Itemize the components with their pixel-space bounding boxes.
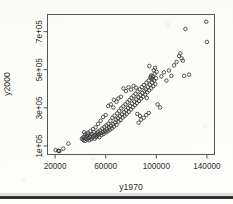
y-axis-tick-labels: 1e+053e+055e+057e+05: [35, 20, 44, 158]
data-point: [187, 73, 191, 77]
data-point: [148, 83, 152, 87]
x-axis-ticks: [55, 155, 207, 159]
plot-frame: [48, 15, 215, 155]
data-point: [154, 77, 158, 81]
scan-bottom-edge: [0, 196, 233, 199]
y-axis-title: y2000: [2, 72, 12, 96]
data-point: [146, 85, 150, 89]
data-point: [205, 20, 209, 24]
data-point: [167, 69, 171, 73]
data-point: [172, 64, 176, 68]
y-tick-label: 5e+05: [35, 58, 44, 81]
data-point: [67, 142, 71, 146]
y-tick-label: 1e+05: [35, 134, 44, 157]
data-point: [128, 98, 132, 102]
x-axis-tick-labels: 2000060000100000140000: [44, 162, 221, 171]
data-point: [162, 71, 166, 75]
data-point: [140, 85, 144, 89]
data-point: [175, 60, 179, 64]
data-point: [147, 89, 151, 93]
y-tick-label: 7e+05: [35, 20, 44, 43]
data-point: [156, 103, 160, 107]
x-tick-label: 20000: [44, 162, 67, 171]
data-point: [96, 122, 100, 126]
scatter-plot: 2000060000100000140000 1e+053e+055e+057e…: [0, 0, 233, 204]
data-point: [124, 89, 128, 93]
data-point: [138, 114, 142, 118]
data-point: [62, 147, 65, 151]
figure-page: 2000060000100000140000 1e+053e+055e+057e…: [0, 0, 233, 204]
data-point: [170, 74, 174, 78]
data-point: [145, 96, 149, 100]
data-point: [115, 100, 119, 104]
data-point: [101, 115, 105, 119]
y-axis-ticks: [44, 32, 48, 146]
data-point: [148, 64, 152, 68]
data-point: [129, 88, 133, 92]
data-point: [184, 27, 188, 31]
data-point: [99, 119, 103, 123]
data-point-group: [54, 20, 209, 153]
data-point: [158, 106, 162, 110]
x-axis-title: y1970: [119, 182, 143, 192]
data-point: [154, 82, 158, 86]
data-point: [111, 116, 115, 120]
data-point: [152, 84, 156, 88]
y-tick-label: 3e+05: [35, 96, 44, 119]
data-point: [205, 40, 209, 44]
data-point: [145, 91, 149, 95]
data-point: [141, 95, 145, 99]
data-point: [153, 72, 157, 76]
data-point: [160, 75, 164, 79]
data-point: [145, 81, 149, 85]
x-tick-label: 60000: [94, 162, 117, 171]
data-point: [182, 74, 186, 78]
data-point: [132, 94, 136, 98]
data-point: [130, 96, 134, 100]
data-point: [136, 90, 140, 94]
data-point: [127, 110, 131, 114]
data-point: [147, 111, 151, 115]
data-point: [149, 86, 153, 90]
data-point: [112, 106, 116, 110]
data-point: [165, 79, 169, 83]
x-tick-label: 100000: [143, 162, 171, 171]
x-tick-label: 140000: [193, 162, 221, 171]
data-point: [133, 103, 137, 107]
data-point: [137, 121, 141, 125]
data-point: [120, 107, 124, 111]
